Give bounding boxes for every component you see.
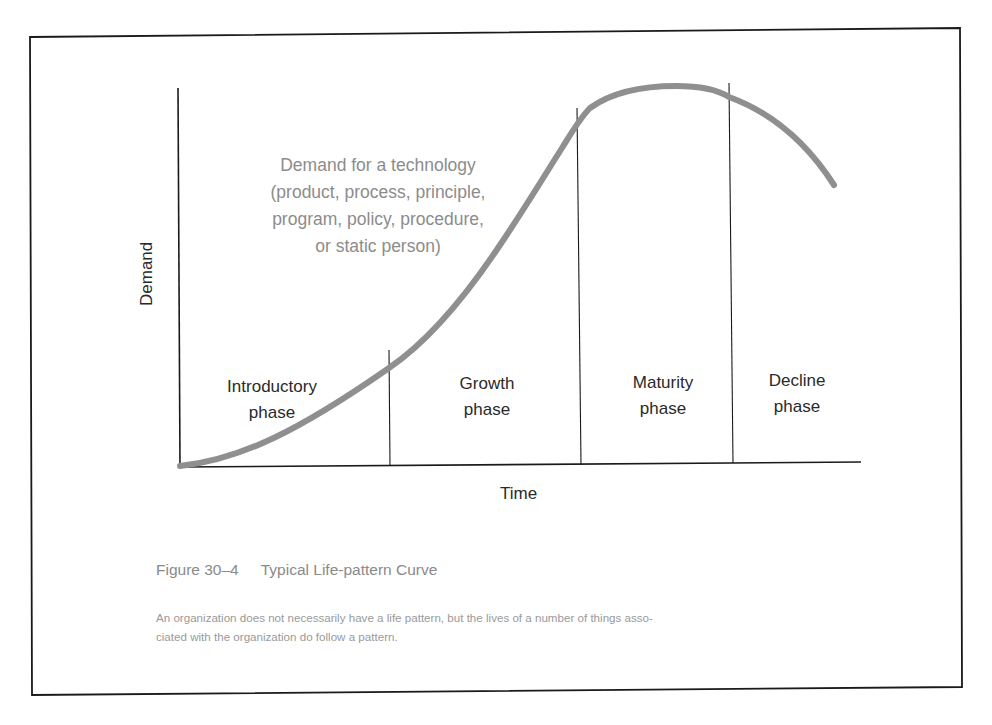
phase-divider-2 (577, 108, 581, 465)
phase-label-line: phase (769, 394, 826, 420)
caption-line-2: ciated with the organization do follow a… (156, 627, 876, 646)
phase-label-line: Maturity (633, 370, 693, 396)
phase-label-line: Introductory (227, 374, 317, 400)
x-axis (180, 462, 861, 467)
annotation-line-4: or static person) (271, 233, 486, 260)
x-axis-label: Time (500, 484, 537, 504)
figure-caption: An organization does not necessarily hav… (156, 608, 876, 646)
annotation-line-1: Demand for a technology (271, 152, 486, 179)
phase-label-line: phase (227, 400, 317, 426)
figure-title: Figure 30–4Typical Life-pattern Curve (156, 561, 437, 579)
phase-label-line: Decline (769, 368, 826, 394)
phase-label-line: phase (633, 396, 693, 422)
annotation-line-3: program, policy, procedure, (271, 206, 486, 233)
caption-line-1: An organization does not necessarily hav… (156, 608, 876, 627)
phase-label-introductory: Introductory phase (227, 374, 317, 426)
figure-title-text: Typical Life-pattern Curve (261, 561, 438, 578)
figure-border (30, 28, 962, 695)
phase-label-line: phase (460, 397, 515, 423)
y-axis-label: Demand (137, 244, 157, 306)
y-axis (178, 88, 180, 467)
annotation-line-2: (product, process, principle, (271, 179, 486, 206)
figure-number: Figure 30–4 (156, 561, 239, 578)
phase-label-maturity: Maturity phase (633, 370, 693, 422)
phase-label-growth: Growth phase (460, 371, 515, 423)
phase-divider-3 (729, 83, 733, 463)
curve-annotation: Demand for a technology (product, proces… (271, 152, 486, 260)
phase-label-decline: Decline phase (769, 368, 826, 420)
phase-label-line: Growth (460, 371, 515, 397)
